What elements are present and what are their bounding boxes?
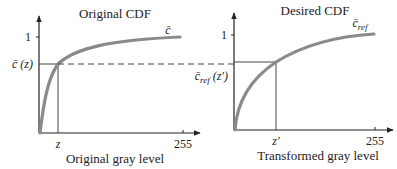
right-curve-label: c̄ref — [353, 16, 369, 32]
right-panel-title: Desired CDF — [281, 3, 350, 18]
left-255-label: 255 — [174, 137, 192, 151]
right-one-label: 1 — [221, 28, 227, 42]
right-cdf-curve — [235, 34, 374, 130]
left-one-label: 1 — [25, 30, 31, 44]
left-x-axis-label: Original gray level — [66, 151, 165, 166]
left-z-label: z — [55, 137, 61, 151]
left-panel: Original CDF 1 c̄ (z) c̄ z 255 Original … — [12, 6, 200, 166]
right-zprime-label: z′ — [271, 134, 280, 148]
left-curve-label: c̄ — [165, 23, 171, 37]
right-x-axis-label: Transformed gray level — [257, 148, 379, 163]
left-panel-title: Original CDF — [79, 6, 151, 21]
right-cref-zprime-label: c̄ref (z′) — [195, 69, 228, 85]
cdf-matching-diagram: Original CDF 1 c̄ (z) c̄ z 255 Original … — [0, 0, 397, 169]
left-cz-label: c̄ (z) — [12, 57, 33, 71]
right-panel: Desired CDF 1 c̄ref (z′) c̄ref z′ 255 Tr… — [195, 3, 393, 163]
left-cdf-curve — [40, 37, 180, 133]
right-255-label: 255 — [366, 134, 384, 148]
